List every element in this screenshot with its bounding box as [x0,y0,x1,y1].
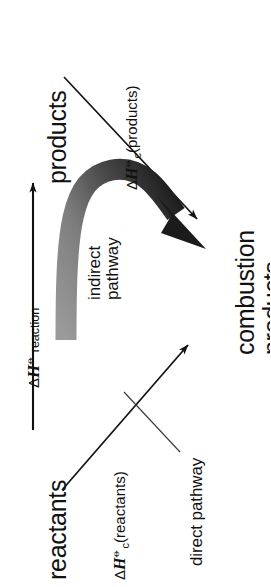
standard-state-icon: ⦵ [23,356,35,365]
label-delta-h-reaction-trailing: reaction [28,308,42,356]
delta-symbol: Δ [25,378,42,388]
node-combustion-products-line1: combustion [232,230,259,355]
enthalpy-symbol: H [24,365,43,378]
label-delta-hc-products-trailing: (products) [123,85,140,153]
enthalpy-symbol: H [123,168,140,180]
standard-state-icon: ⦵ [121,159,133,168]
standard-state-icon: ⦵ [109,549,121,558]
node-reactants: reactants [44,480,71,580]
node-combustion-products: combustion products [232,230,270,355]
label-indirect-pathway: indirect pathway [86,237,122,300]
label-delta-hc-reactants: ΔH⦵c(reactants) [112,471,129,580]
label-delta-hc-reactants-trailing: (reactants) [111,471,128,543]
label-delta-hc-products: ΔH⦵c(products) [124,85,141,190]
label-indirect-pathway-line1: indirect [86,237,104,300]
direct-pathway-leader-line [124,392,180,452]
node-products: products [44,91,71,185]
combustion-subscript: c [131,153,143,159]
label-delta-h-reaction: ΔH⦵ reaction [25,308,43,388]
label-direct-pathway: direct pathway [188,458,206,566]
delta-symbol: Δ [123,180,140,190]
enthalpy-cycle-figure: products reactants combustion products Δ… [0,0,270,587]
combustion-subscript: c [119,543,131,549]
delta-symbol: Δ [111,570,128,580]
arrow-delta-hc-reactants [62,345,188,490]
node-combustion-products-line2: products [259,230,271,355]
enthalpy-symbol: H [111,558,128,570]
label-indirect-pathway-line2: pathway [104,237,122,300]
